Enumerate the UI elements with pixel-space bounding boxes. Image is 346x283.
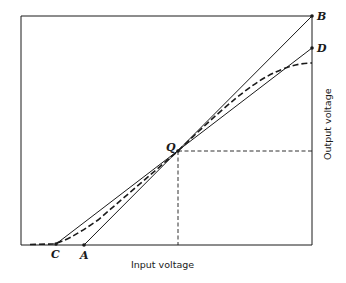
- label-B: B: [316, 10, 326, 23]
- label-Q: Q: [166, 141, 176, 154]
- line-A-B: [84, 16, 312, 245]
- point-Q: [176, 149, 180, 153]
- x-axis-label: Input voltage: [131, 259, 194, 270]
- point-C: [54, 242, 58, 246]
- point-B: [310, 14, 314, 18]
- point-D: [310, 46, 314, 50]
- line-C-D: [56, 48, 312, 244]
- label-A: A: [79, 249, 89, 262]
- point-A: [82, 243, 86, 247]
- y-axis-label: Output voltage: [322, 88, 333, 160]
- label-C: C: [51, 248, 60, 261]
- label-D: D: [316, 42, 327, 55]
- transfer-characteristic-diagram: B D Q C A Input voltage Output voltage: [0, 0, 346, 283]
- plot-frame: [21, 16, 312, 245]
